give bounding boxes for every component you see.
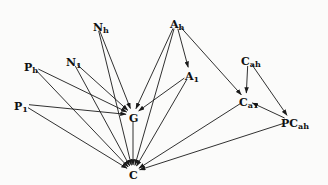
node-subscript-label: h: [32, 65, 38, 75]
edge-pc-ah-to-c: [140, 123, 285, 170]
node-subscript-label: h: [103, 25, 109, 35]
node-n-h: Nh: [93, 18, 109, 34]
edge-a-h-to-c-a1: [181, 27, 242, 95]
edge-n-1-to-g: [77, 65, 128, 111]
node-base-label: G: [129, 112, 138, 125]
edge-p-1-to-g: [29, 105, 126, 115]
node-base-label: C: [239, 96, 248, 109]
node-subscript-label: a1: [248, 100, 259, 110]
node-base-label: N: [93, 21, 103, 34]
node-base-label: PC: [281, 117, 298, 130]
node-c: C: [129, 166, 138, 182]
edge-a-1-to-c: [137, 80, 187, 166]
edge-n-1-to-c: [75, 66, 129, 166]
node-subscript-label: h: [179, 22, 185, 32]
node-n-1: N1: [66, 53, 82, 69]
node-c-a1: Ca1: [239, 93, 259, 109]
node-a-h: Ah: [170, 15, 184, 31]
node-base-label: C: [241, 55, 250, 68]
node-subscript-label: 1: [194, 74, 200, 84]
edge-p-1-to-c: [28, 108, 127, 169]
node-subscript-label: ah: [298, 121, 309, 131]
node-base-label: A: [185, 70, 194, 83]
node-a-1: A1: [185, 67, 199, 83]
graph-diagram: NhAhN1CahPhA1P1Ca1PCahGC: [0, 0, 328, 185]
node-base-label: A: [170, 18, 179, 31]
graph-edges-canvas: [0, 0, 328, 185]
edge-a-h-to-a-1: [178, 29, 188, 67]
node-c-ah: Cah: [241, 52, 261, 68]
edge-a-1-to-g: [139, 78, 185, 111]
edge-a-h-to-c: [135, 29, 174, 166]
node-base-label: C: [129, 169, 138, 182]
node-subscript-label: 1: [22, 104, 28, 114]
edge-c-ah-to-c-a1: [246, 66, 247, 93]
edge-p-h-to-c: [37, 71, 128, 167]
node-pc-ah: PCah: [281, 114, 309, 130]
node-base-label: N: [66, 56, 76, 69]
node-subscript-label: ah: [250, 59, 261, 69]
node-p-h: Ph: [24, 58, 38, 74]
node-p-1: P1: [14, 97, 28, 113]
node-g: G: [129, 109, 138, 125]
node-subscript-label: 1: [76, 60, 82, 70]
